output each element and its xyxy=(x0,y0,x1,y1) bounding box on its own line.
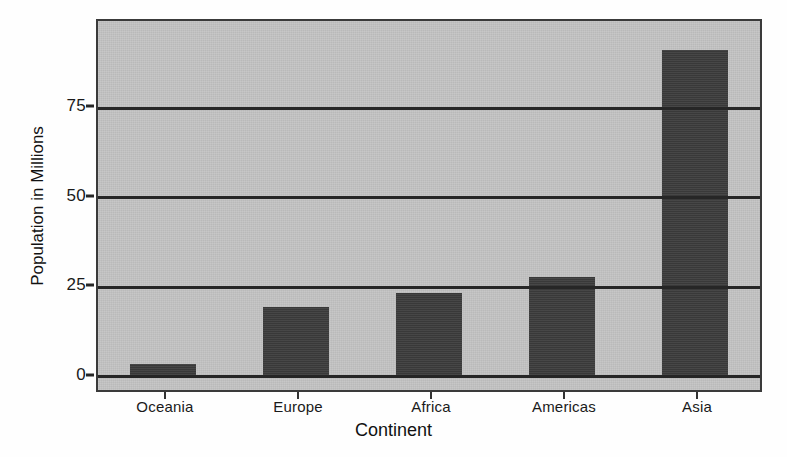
bar-africa[interactable] xyxy=(396,293,462,375)
x-tick-label-asia: Asia xyxy=(637,398,757,415)
gridline-0 xyxy=(98,375,760,378)
bar-europe[interactable] xyxy=(263,307,329,375)
plot-area xyxy=(96,19,762,392)
y-tick-mark-75 xyxy=(86,105,94,108)
gridline-50 xyxy=(98,196,760,199)
y-tick-mark-25 xyxy=(86,284,94,287)
gridline-75 xyxy=(98,107,760,110)
bar-oceania[interactable] xyxy=(130,364,196,375)
y-tick-mark-0 xyxy=(86,374,94,377)
x-tick-label-oceania: Oceania xyxy=(105,398,225,415)
x-tick-label-americas: Americas xyxy=(504,398,624,415)
y-axis-title: Population in Millions xyxy=(28,106,48,306)
bar-chart-figure: 75 50 25 0 Population in Millions Oceani… xyxy=(0,0,787,457)
bar-asia[interactable] xyxy=(662,50,728,375)
y-tick-label-0: 0 xyxy=(38,365,86,385)
x-axis-title: Continent xyxy=(0,420,787,441)
gridline-25 xyxy=(98,286,760,289)
x-tick-label-africa: Africa xyxy=(371,398,491,415)
y-tick-mark-50 xyxy=(86,195,94,198)
bar-americas[interactable] xyxy=(529,277,595,375)
x-tick-label-europe: Europe xyxy=(238,398,358,415)
